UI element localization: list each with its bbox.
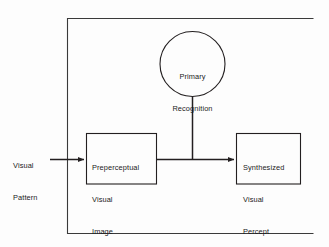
system-boundary-frame — [68, 19, 314, 234]
diagram-graphics — [0, 0, 329, 247]
synthesized-visual-percept-box — [237, 134, 301, 185]
preperceptual-visual-image-box — [87, 134, 157, 185]
primary-recognition-circle — [160, 32, 225, 97]
diagram-canvas: Visual Pattern Primary Recognition Prepe… — [0, 0, 329, 247]
